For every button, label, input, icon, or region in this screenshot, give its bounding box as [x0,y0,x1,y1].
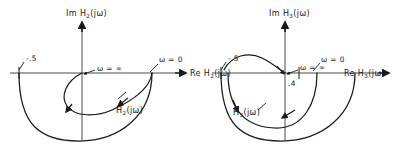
real-axis-label-h3: Re H3(jω) [344,69,385,79]
label-omega-infinity-h2: ω = ∞ [97,64,122,73]
imaginary-axis-label-h3: Im H3(jω) [269,9,310,19]
imaginary-axis-label-h2: Im H2(jω) [66,9,107,19]
leader-curve-label-h2 [118,92,126,99]
curve-middle-lobe-h3 [228,73,317,128]
direction-arrow-right-h3 [282,110,295,118]
real-axis-label-h2: Re H2(jω) [190,69,231,79]
label-right-intercept-h3: .4 [288,79,296,88]
leader-omega-zero-h2 [150,64,158,72]
leader-left-intercept-h2 [19,62,24,70]
curve-label-h3: H3(jω) [233,108,260,118]
plot-h3: Im H3(jω) Re H3(jω) -.5 ω = ∞ ω = 0 .4 H… [212,9,389,141]
curve-label-h2: H2(jω) [116,106,143,116]
figure-canvas: Im H2(jω) Re H2(jω) -.5 ω = ∞ ω = 0 H2(j… [0,0,405,150]
label-omega-infinity-h3: ω = ∞ [300,63,325,72]
plot-h2: Im H2(jω) Re H2(jω) -.5 ω = ∞ ω = 0 H2(j… [10,9,231,141]
label-omega-zero-h3: ω = 0 [321,55,345,64]
label-omega-zero-h2: ω = 0 [159,55,183,64]
nyquist-figure: Im H2(jω) Re H2(jω) -.5 ω = ∞ ω = 0 H2(j… [0,0,405,150]
label-left-intercept-h2: -.5 [26,54,37,63]
label-left-intercept-h3: -.5 [228,54,239,63]
